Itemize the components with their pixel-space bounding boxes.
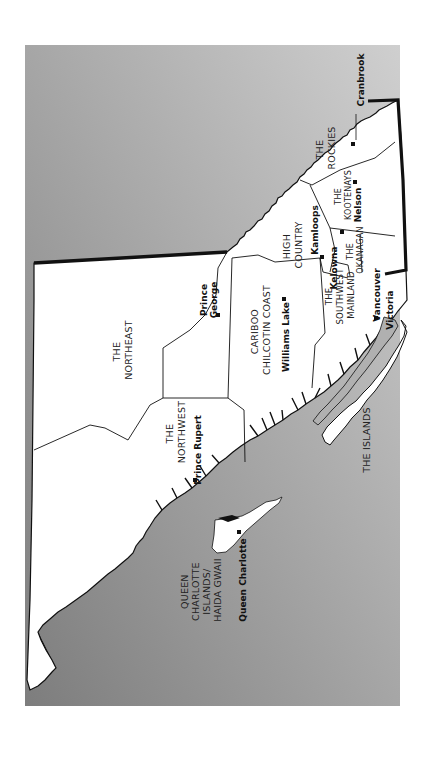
label-haida-gwaii-1: QUEEN (179, 574, 190, 609)
svg-text:THE ISLANDS: THE ISLANDS (361, 407, 372, 473)
map-canvas: THE NORTHEAST THE NORTHWEST CARIBOO CHIL… (0, 0, 428, 757)
label-kootenays-2: KOOTENAYS (344, 170, 353, 220)
label-prince-george-1: Prince (199, 284, 209, 316)
label-high-country-1: HIGH (281, 234, 292, 259)
label-cariboo-1: CARIBOO (249, 309, 260, 354)
label-cariboo-2: CHILCOTIN COAST (261, 285, 272, 375)
label-northwest-2: NORTHWEST (176, 401, 187, 463)
label-islands: THE ISLANDS (361, 407, 372, 473)
nelson-marker (353, 180, 357, 184)
cranbrook-marker (351, 142, 355, 146)
label-northeast-1: THE (111, 342, 122, 363)
williams-lake-marker (282, 297, 286, 301)
label-cranbrook: Cranbrook (356, 53, 366, 107)
label-haida-gwaii-2: CHARLOTTE (190, 562, 201, 621)
label-haida-gwaii-4: HAIDA GWAII (212, 558, 223, 622)
label-rockies-1: THE (314, 140, 325, 161)
label-high-country-2: COUNTRY (293, 221, 304, 268)
label-okanagan-2: OKANAGAN (356, 226, 365, 273)
label-williams-lake: Williams Lake (281, 302, 291, 372)
label-queen-charlotte: Queen Charlotte (238, 538, 248, 621)
queen-charlotte-marker (237, 530, 241, 534)
label-prince-george-2: George (209, 282, 219, 319)
label-kamloops: Kamloops (310, 205, 320, 255)
label-vancouver: Vancouver (372, 268, 382, 322)
label-rockies-2: ROCKIES (326, 126, 337, 169)
label-kelowna: Kelowna (329, 247, 339, 290)
kamloops-marker (320, 255, 324, 259)
kelowna-marker (340, 230, 344, 234)
label-kootenays-1: THE (334, 188, 343, 206)
label-northwest-1: THE (164, 424, 175, 445)
label-victoria: Victoria (385, 290, 395, 329)
label-okanagan-1: THE (346, 243, 355, 261)
label-haida-gwaii-3: ISLANDS/ (201, 568, 212, 615)
label-southwest-3: MAINLAND (346, 271, 356, 319)
label-northeast-2: NORTHEAST (123, 320, 134, 380)
label-nelson: Nelson (353, 188, 363, 223)
bc-tourism-regions-map: THE NORTHEAST THE NORTHWEST CARIBOO CHIL… (0, 0, 428, 757)
label-prince-rupert: Prince Rupert (193, 414, 203, 484)
